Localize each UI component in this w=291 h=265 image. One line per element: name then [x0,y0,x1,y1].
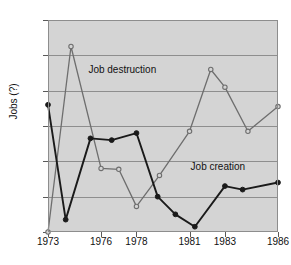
x-tick-label: 1983 [205,237,245,247]
data-point [63,217,68,222]
data-point [192,224,197,229]
data-point [109,138,114,143]
data-point [223,85,227,89]
data-point [209,67,213,71]
x-tick-mark [278,232,279,237]
data-point [134,204,138,208]
x-tick-mark [136,232,137,237]
data-point [173,212,178,217]
x-tick-label: 1986 [258,237,291,247]
x-tick-label: 1978 [116,237,156,247]
data-point [157,173,161,177]
data-point [223,184,228,189]
data-point [155,194,160,199]
data-point [276,104,280,108]
annotation-job-creation: Job creation [191,161,245,172]
chart-figure: Jobs (?) 681012141618 197319761978198119… [0,0,291,265]
x-tick-mark [190,232,191,237]
series-line-job-destruction [48,47,278,233]
x-tick-mark [101,232,102,237]
data-series-lines [48,20,278,232]
data-point [134,131,139,136]
data-point [46,230,50,234]
data-point [117,167,121,171]
data-point [240,187,245,192]
x-tick-label: 1981 [170,237,210,247]
x-tick-mark [225,232,226,237]
data-point [187,129,191,133]
data-point [276,180,281,185]
data-point [88,136,93,141]
data-point [46,102,51,107]
annotation-job-destruction: Job destruction [88,64,156,75]
x-tick-label: 1973 [28,237,68,247]
x-tick-label: 1976 [81,237,121,247]
data-point [246,129,250,133]
plot-area: Job destructionJob creation [48,20,278,232]
data-point [99,166,103,170]
y-axis-label: Jobs (?) [8,62,19,142]
data-point [69,44,73,48]
